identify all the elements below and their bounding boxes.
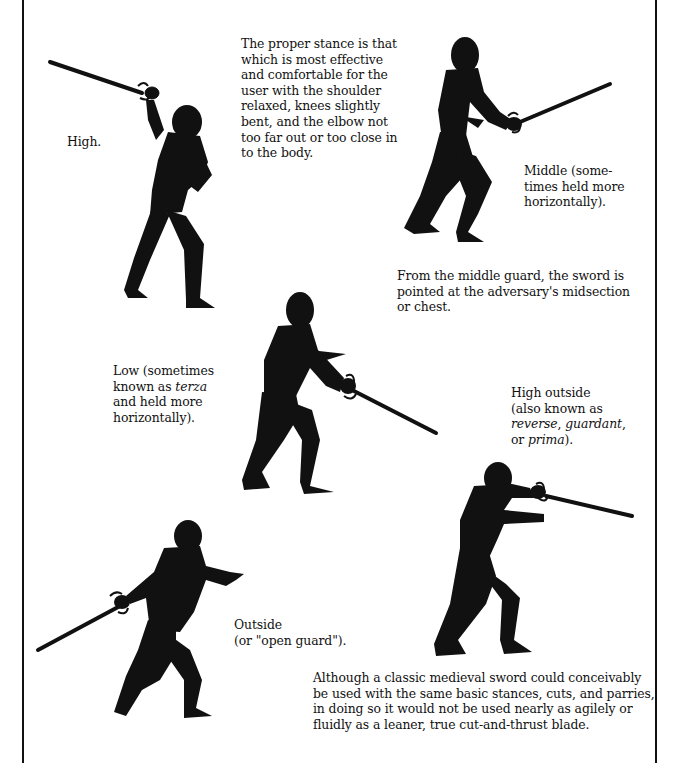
fencer-outside-guard-figure <box>0 0 674 763</box>
fencer-silhouette-icon <box>0 0 674 763</box>
